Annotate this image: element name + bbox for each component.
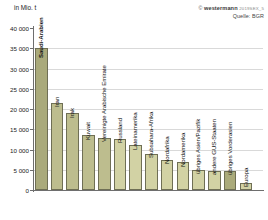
bar[interactable]	[35, 48, 48, 190]
bar[interactable]	[145, 154, 158, 190]
category-label: Nordamerika	[179, 133, 186, 167]
y-axis-tick-label: 5 000	[14, 166, 29, 173]
category-label: Russland	[116, 118, 123, 143]
category-label: Irak	[68, 108, 75, 118]
y-axis-tick-label: 40 000	[10, 25, 29, 32]
bar-slot	[161, 28, 174, 190]
source-line: Quelle: BGR	[199, 13, 264, 20]
y-axis-tick-label: 15 000	[10, 126, 29, 133]
y-axis-labels: 40 00035 00030 00025 00020 00015 00010 0…	[0, 0, 29, 220]
bar-slot	[129, 28, 142, 190]
category-label: Subsahara-Afrika	[147, 112, 154, 158]
bar-slot	[51, 28, 64, 190]
credit-line-publisher: © westermann 2019SEX_5	[199, 5, 264, 12]
bar[interactable]	[129, 145, 142, 190]
y-axis-tick	[30, 28, 33, 29]
y-axis-tick	[30, 190, 33, 191]
credit-block: © westermann 2019SEX_5 Quelle: BGR	[199, 5, 264, 20]
y-axis-tick-label: 35 000	[10, 45, 29, 52]
y-axis-tick	[30, 170, 33, 171]
bar-chart: in Mio. t © westermann 2019SEX_5 Quelle:…	[0, 0, 268, 220]
bar[interactable]	[66, 113, 79, 190]
y-axis-tick-label: 0	[26, 187, 29, 194]
y-axis-tick-label: 20 000	[10, 106, 29, 113]
x-axis-line	[33, 190, 264, 191]
category-label: andere GUS-Staaten	[210, 119, 217, 175]
category-label: Europa	[242, 168, 249, 187]
bar[interactable]	[51, 103, 64, 190]
y-axis-tick	[30, 48, 33, 49]
copyright-symbol: ©	[199, 5, 203, 11]
y-axis-tick	[30, 69, 33, 70]
bar[interactable]	[161, 160, 174, 190]
y-axis-tick	[30, 89, 33, 90]
bar-slot	[82, 28, 95, 190]
bar[interactable]	[114, 139, 127, 190]
publisher-name: westermann	[204, 5, 238, 11]
category-label: Vereinigte Arabische Emirate	[100, 65, 107, 142]
bar-slot	[145, 28, 158, 190]
y-axis-tick-label: 10 000	[10, 146, 29, 153]
y-axis-tick-label: 25 000	[10, 85, 29, 92]
bar-slot	[240, 28, 253, 190]
bar-slot	[114, 28, 127, 190]
category-label: Nordafrika	[163, 137, 170, 165]
category-label: übriges Asien/Pazifik	[194, 119, 201, 174]
bar[interactable]	[98, 138, 111, 190]
y-axis-tick	[30, 129, 33, 130]
edition-code: 2019SEX_5	[239, 6, 264, 11]
category-label: Iran	[53, 97, 60, 107]
category-label: Kuwait	[84, 122, 91, 140]
category-label: Saudi-Arabien	[37, 17, 44, 58]
y-axis-tick	[30, 150, 33, 151]
y-axis-tick-label: 30 000	[10, 65, 29, 72]
category-label: Lateinamerika	[131, 112, 138, 150]
y-axis-tick	[30, 109, 33, 110]
bar[interactable]	[82, 135, 95, 190]
category-label: übriges Vorderasien	[226, 122, 233, 175]
